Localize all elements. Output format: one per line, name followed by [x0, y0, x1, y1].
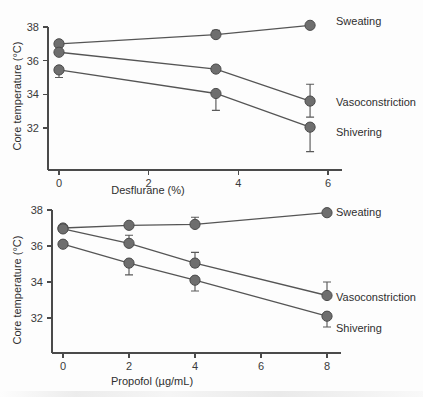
data-point-marker [124, 220, 134, 230]
data-point-marker [54, 47, 64, 57]
data-point-marker [305, 20, 315, 30]
data-point-marker [190, 219, 200, 229]
y-axis-title-desflurane: Core temperature (°C) [11, 42, 23, 151]
series-line-vasoconstriction [59, 52, 310, 101]
series-label-vasoconstriction: Vasoconstriction [336, 291, 416, 303]
x-tick-label: 6 [258, 360, 264, 372]
figure-core-temperature-thresholds: 323436380246 SweatingVasoconstrictionShi… [0, 0, 423, 397]
data-point-marker [211, 88, 221, 98]
chart-panel-propofol: 3234363802468 SweatingVasoconstrictionSh… [0, 198, 423, 397]
data-point-marker [190, 258, 200, 268]
series-label-shivering: Shivering [336, 322, 382, 334]
y-tick-label: 38 [27, 21, 39, 33]
series-line-shivering [59, 70, 310, 127]
series-label-shivering: Shivering [336, 126, 382, 138]
y-tick-label: 32 [31, 312, 43, 324]
x-axis-title-desflurane: Desflurane (%) [111, 184, 184, 196]
y-tick-label: 36 [27, 55, 39, 67]
y-tick-label: 32 [27, 122, 39, 134]
y-axis-title-propofol: Core temperature (°C) [11, 236, 23, 345]
chart-panel-desflurane: 323436380246 SweatingVasoconstrictionShi… [0, 0, 423, 198]
x-tick-label: 0 [56, 177, 62, 189]
data-point-marker [54, 65, 64, 75]
data-point-marker [211, 29, 221, 39]
data-point-marker [322, 311, 332, 321]
data-point-marker [190, 275, 200, 285]
x-tick-label: 4 [192, 360, 198, 372]
data-point-marker [305, 96, 315, 106]
series-label-sweating: Sweating [336, 206, 381, 218]
y-tick-label: 34 [31, 276, 43, 288]
data-layer-desflurane: SweatingVasoconstrictionShivering [54, 15, 416, 152]
x-tick-label: 4 [235, 177, 241, 189]
x-tick-label: 0 [60, 360, 66, 372]
data-point-marker [58, 224, 68, 234]
data-point-marker [211, 64, 221, 74]
data-point-marker [322, 290, 332, 300]
data-point-marker [124, 238, 134, 248]
axes-desflurane: 323436380246 [27, 21, 342, 189]
desflurane-chart-svg: 323436380246 SweatingVasoconstrictionShi… [0, 0, 423, 198]
series-label-sweating: Sweating [336, 15, 381, 27]
data-point-marker [322, 208, 332, 218]
data-point-marker [58, 239, 68, 249]
x-axis-title-propofol: Propofol (µg/mL) [111, 375, 193, 387]
y-tick-label: 38 [31, 204, 43, 216]
x-tick-label: 8 [324, 360, 330, 372]
x-tick-label: 6 [325, 177, 331, 189]
series-label-vasoconstriction: Vasoconstriction [336, 96, 416, 108]
x-tick-label: 2 [126, 360, 132, 372]
y-tick-label: 36 [31, 240, 43, 252]
data-layer-propofol: SweatingVasoconstrictionShivering [58, 206, 416, 334]
data-point-marker [305, 122, 315, 132]
propofol-chart-svg: 3234363802468 SweatingVasoconstrictionSh… [0, 198, 423, 397]
y-tick-label: 34 [27, 88, 39, 100]
series-line-sweating [59, 25, 310, 44]
data-point-marker [124, 258, 134, 268]
